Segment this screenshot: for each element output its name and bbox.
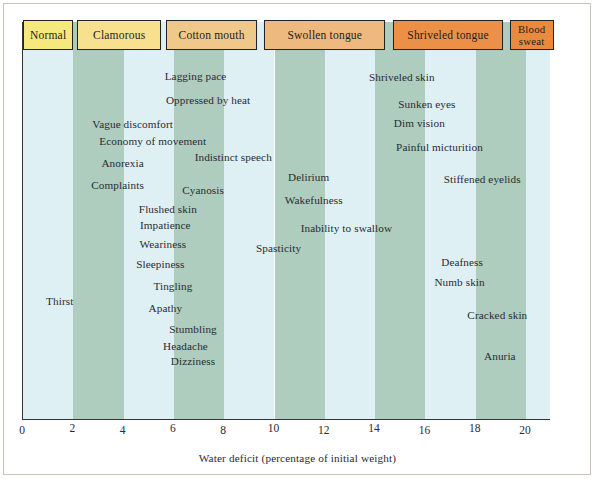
x-tick-label: 2	[69, 422, 75, 434]
symptom-label: Sunken eyes	[398, 99, 455, 110]
symptom-label: Delirium	[288, 172, 329, 183]
x-tick-label: 10	[268, 422, 280, 434]
dehydration-symptom-chart: Lagging paceOppressed by heatVague disco…	[0, 0, 595, 479]
stage-box-blood-sweat[interactable]: Bloodsweat	[510, 20, 554, 50]
background-band	[275, 22, 325, 419]
stage-label: Shriveled tongue	[407, 29, 488, 41]
plot-area	[22, 22, 550, 420]
x-tick-label: 12	[318, 424, 330, 436]
symptom-label: Oppressed by heat	[166, 95, 250, 106]
symptom-label: Anuria	[484, 351, 516, 362]
symptom-label: Weariness	[140, 239, 187, 250]
background-band	[224, 22, 274, 419]
symptom-label: Impatience	[140, 220, 191, 231]
symptom-label: Shriveled skin	[369, 72, 435, 83]
symptom-label: Deafness	[441, 257, 483, 268]
symptom-label: Stumbling	[169, 324, 217, 335]
stage-label: Clamorous	[93, 29, 145, 41]
symptom-label: Dim vision	[394, 118, 445, 129]
stage-box-clamorous[interactable]: Clamorous	[77, 20, 161, 50]
stage-label-line: sweat	[519, 35, 545, 47]
symptom-label: Flushed skin	[139, 204, 197, 215]
symptom-label: Spasticity	[256, 243, 301, 254]
symptom-label: Headache	[163, 341, 208, 352]
stage-box-cotton-mouth[interactable]: Cotton mouth	[166, 20, 257, 50]
background-band	[73, 22, 123, 419]
stage-label: Cotton mouth	[179, 29, 245, 41]
symptom-label: Economy of movement	[99, 136, 206, 147]
band-background	[23, 22, 550, 419]
x-axis-title: Water deficit (percentage of initial wei…	[0, 452, 595, 464]
x-tick-label: 4	[120, 424, 126, 436]
x-tick-label: 0	[19, 424, 25, 436]
symptom-label: Wakefulness	[285, 195, 343, 206]
x-tick-label: 6	[170, 422, 176, 434]
symptom-label: Lagging pace	[165, 71, 227, 82]
background-band	[526, 22, 550, 419]
background-band	[23, 22, 73, 419]
stage-box-swollen-tongue[interactable]: Swollen tongue	[264, 20, 385, 50]
x-tick-label: 18	[469, 422, 481, 434]
symptom-label: Complaints	[91, 180, 144, 191]
symptom-label: Cyanosis	[182, 185, 224, 196]
symptom-label: Vague discomfort	[92, 119, 173, 130]
symptom-label: Inability to swallow	[301, 223, 393, 234]
stage-box-shriveled-tongue[interactable]: Shriveled tongue	[393, 20, 504, 50]
background-band	[325, 22, 375, 419]
x-axis-ticks: 02468101214161820	[0, 422, 595, 442]
symptom-label: Anorexia	[101, 158, 143, 169]
x-tick-label: 14	[368, 422, 380, 434]
symptom-label: Sleepiness	[136, 259, 184, 270]
stage-label-line: Blood	[518, 23, 545, 35]
symptom-label: Dizziness	[171, 356, 215, 367]
symptom-label: Thirst	[46, 296, 73, 307]
symptom-label: Cracked skin	[467, 310, 527, 321]
symptom-label: Painful micturition	[396, 142, 483, 153]
symptom-label: Tingling	[153, 281, 192, 292]
stage-label: Swollen tongue	[287, 29, 362, 41]
x-tick-label: 8	[220, 424, 226, 436]
stage-label: Normal	[30, 29, 66, 41]
stage-box-normal[interactable]: Normal	[23, 20, 73, 50]
x-tick-label: 16	[419, 424, 431, 436]
symptom-label: Apathy	[149, 303, 183, 314]
symptom-label: Indistinct speech	[195, 152, 272, 163]
symptom-label: Stiffened eyelids	[444, 174, 521, 185]
x-tick-label: 20	[519, 424, 531, 436]
symptom-label: Numb skin	[434, 277, 484, 288]
